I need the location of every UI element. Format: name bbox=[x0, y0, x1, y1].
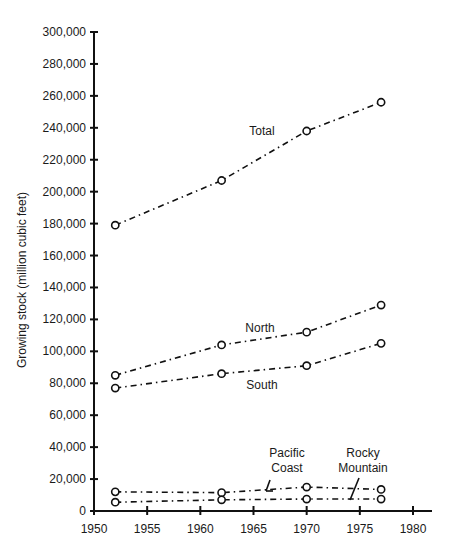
y-tick-label: 140,000 bbox=[43, 280, 87, 294]
series-total bbox=[112, 99, 385, 229]
data-point-rocky-mountain bbox=[303, 495, 310, 502]
series-north bbox=[112, 301, 385, 378]
data-point-rocky-mountain bbox=[378, 495, 385, 502]
data-point-south bbox=[378, 340, 385, 347]
label-south: South bbox=[246, 378, 277, 392]
series-rocky-mountain bbox=[112, 495, 385, 505]
data-point-south bbox=[303, 362, 310, 369]
x-tick-label: 1980 bbox=[400, 522, 427, 536]
data-point-total bbox=[218, 177, 225, 184]
data-point-north bbox=[303, 329, 310, 336]
y-tick-label: 300,000 bbox=[43, 25, 87, 39]
y-tick-label: 260,000 bbox=[43, 89, 87, 103]
label-pacific-coast: Pacific bbox=[269, 446, 304, 460]
y-tick-label: 60,000 bbox=[49, 408, 86, 422]
data-point-pacific-coast bbox=[218, 489, 225, 496]
x-tick-label: 1965 bbox=[240, 522, 267, 536]
x-tick-label: 1950 bbox=[81, 522, 108, 536]
label-north: North bbox=[245, 321, 274, 335]
x-tick-label: 1960 bbox=[187, 522, 214, 536]
leader-pacific-coast bbox=[266, 480, 270, 491]
data-point-rocky-mountain bbox=[112, 499, 119, 506]
data-point-south bbox=[218, 370, 225, 377]
data-point-pacific-coast bbox=[378, 486, 385, 493]
series-group bbox=[112, 99, 385, 506]
label-pacific-coast: Coast bbox=[271, 461, 303, 475]
data-point-pacific-coast bbox=[303, 483, 310, 490]
y-axis-ticks: 020,00040,00060,00080,000100,000120,0001… bbox=[43, 25, 98, 518]
series-line-pacific-coast bbox=[115, 487, 381, 493]
y-tick-label: 220,000 bbox=[43, 153, 87, 167]
y-tick-label: 100,000 bbox=[43, 344, 87, 358]
label-rocky-mountain: Mountain bbox=[338, 461, 387, 475]
y-tick-label: 280,000 bbox=[43, 57, 87, 71]
growing-stock-chart: 020,00040,00060,00080,000100,000120,0001… bbox=[0, 0, 450, 551]
data-point-total bbox=[378, 99, 385, 106]
y-tick-label: 200,000 bbox=[43, 185, 87, 199]
label-rocky-mountain: Rocky bbox=[346, 446, 379, 460]
series-labels: TotalNorthSouthPacificCoastRockyMountain bbox=[245, 124, 387, 500]
data-point-south bbox=[112, 384, 119, 391]
data-point-total bbox=[112, 222, 119, 229]
x-tick-label: 1975 bbox=[346, 522, 373, 536]
series-line-total bbox=[115, 102, 381, 225]
data-point-north bbox=[112, 372, 119, 379]
y-tick-label: 180,000 bbox=[43, 217, 87, 231]
series-pacific-coast bbox=[112, 483, 385, 496]
data-point-north bbox=[378, 301, 385, 308]
series-line-rocky-mountain bbox=[115, 499, 381, 502]
y-tick-label: 20,000 bbox=[49, 472, 86, 486]
data-point-north bbox=[218, 341, 225, 348]
y-tick-label: 80,000 bbox=[49, 376, 86, 390]
label-total: Total bbox=[249, 124, 274, 138]
y-tick-label: 240,000 bbox=[43, 121, 87, 135]
y-tick-label: 160,000 bbox=[43, 249, 87, 263]
y-tick-label: 40,000 bbox=[49, 440, 86, 454]
data-point-pacific-coast bbox=[112, 488, 119, 495]
y-tick-label: 0 bbox=[79, 504, 86, 518]
x-tick-label: 1955 bbox=[134, 522, 161, 536]
data-point-rocky-mountain bbox=[218, 496, 225, 503]
data-point-total bbox=[303, 127, 310, 134]
x-tick-label: 1970 bbox=[293, 522, 320, 536]
series-line-north bbox=[115, 305, 381, 375]
y-tick-label: 120,000 bbox=[43, 312, 87, 326]
y-axis-title: Growing stock (million cubic feet) bbox=[15, 192, 29, 368]
